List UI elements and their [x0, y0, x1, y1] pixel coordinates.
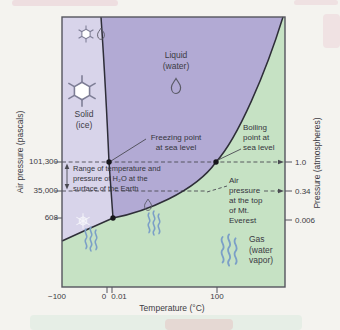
surface-range-note: Range of temperature and pressure of H₂O…	[73, 164, 161, 194]
y-left-tick-608: 608	[10, 213, 58, 223]
y-right-tick-1.0: 1.0	[295, 158, 306, 168]
y-right-tick-0.006: 0.006	[295, 216, 315, 226]
x-axis-title: Temperature (°C)	[139, 303, 204, 313]
x-tick-100: 100	[210, 292, 223, 302]
boiling-point-dot	[213, 159, 218, 164]
phase-diagram-figure: Air pressure (pascals) Pressure (atmosph…	[0, 0, 340, 330]
x-tick-neg100: −100	[48, 292, 66, 302]
gas-region-label: Gas (water vapor)	[249, 234, 273, 266]
y-axis-right-title: Pressure (atmospheres)	[312, 117, 322, 208]
boiling-point-note: Boiling point at sea level	[243, 123, 275, 153]
y-left-tick-101300: 101,300	[10, 157, 58, 167]
x-tick-0.01: 0.01	[111, 292, 127, 302]
solid-region-label: Solid (ice)	[75, 109, 94, 130]
triple-point-dot	[110, 215, 115, 220]
everest-pressure-note: Air pressure at the top of Mt. Everest	[229, 176, 262, 226]
y-left-tick-35000: 35,000	[10, 186, 58, 196]
freezing-point-note: Freezing point at sea level	[151, 133, 202, 153]
liquid-region-label: Liquid (water)	[163, 50, 189, 71]
y-right-tick-0.34: 0.34	[295, 187, 311, 197]
x-tick-0: 0	[102, 292, 106, 302]
y-axis-left-title: Air pressure (pascals)	[15, 111, 25, 194]
